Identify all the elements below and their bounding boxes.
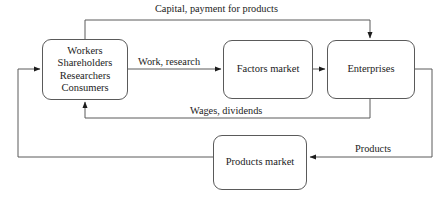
circular-flow-diagram: Workers Shareholders Researchers Consume…	[0, 0, 448, 197]
edge-capital-path	[85, 20, 370, 39]
node-households-line-1: Workers	[67, 45, 102, 57]
node-households-line-2: Shareholders	[58, 57, 113, 69]
node-factors-market-label: Factors market	[237, 63, 300, 75]
node-enterprises[interactable]: Enterprises	[327, 40, 415, 99]
node-households[interactable]: Workers Shareholders Researchers Consume…	[42, 39, 128, 100]
node-households-line-3: Researchers	[60, 70, 111, 82]
node-products-market-label: Products market	[226, 156, 295, 168]
edge-label-products: Products	[355, 143, 391, 154]
edge-label-work: Work, research	[138, 56, 200, 67]
edge-label-wages: Wages, dividends	[190, 105, 262, 116]
node-factors-market[interactable]: Factors market	[223, 40, 313, 99]
node-households-line-4: Consumers	[61, 82, 108, 94]
edge-label-capital: Capital, payment for products	[155, 3, 278, 14]
node-enterprises-label: Enterprises	[347, 63, 394, 75]
node-products-market[interactable]: Products market	[213, 135, 307, 190]
